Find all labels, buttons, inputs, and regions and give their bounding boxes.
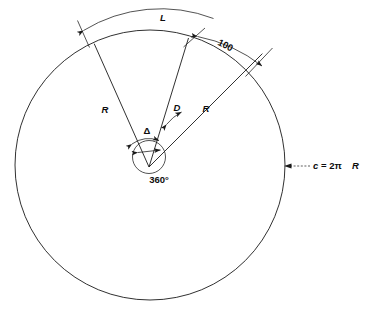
angle-dimension-D bbox=[167, 112, 182, 125]
label-circumference-c: c bbox=[313, 160, 319, 171]
label-degree-of-curve-D: D bbox=[174, 102, 181, 113]
figure-canvas: L 100 R R Δ D 360° c = 2π R bbox=[0, 0, 374, 313]
label-station-100: 100 bbox=[216, 36, 235, 53]
arc-dimension-L bbox=[84, 9, 214, 31]
extension-tick-L-left bbox=[78, 21, 90, 48]
full-circle-arc bbox=[133, 141, 166, 174]
label-delta-angle: Δ bbox=[144, 125, 151, 136]
label-radius-left-R: R bbox=[102, 104, 109, 115]
extension-tick-100-right bbox=[246, 48, 273, 77]
label-circumference-equation: = 2π bbox=[321, 160, 342, 171]
label-radius-right-R: R bbox=[203, 103, 210, 114]
circle-geometry-diagram: L 100 R R Δ D 360° c = 2π R bbox=[0, 0, 374, 313]
label-360-degrees: 360° bbox=[149, 174, 169, 185]
label-circumference-R: R bbox=[352, 160, 359, 171]
label-arc-length-L: L bbox=[160, 12, 166, 23]
